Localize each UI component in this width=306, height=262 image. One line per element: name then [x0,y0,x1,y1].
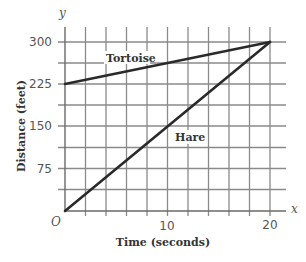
y-axis-variable: y [58,6,66,20]
x-tick-20: 20 [262,218,277,232]
x-tick-10: 10 [159,219,174,233]
horizontal-gridlines [58,42,286,190]
y-tick-300: 300 [29,35,52,49]
y-tick-75: 75 [37,162,52,176]
x-axis-variable: x [291,202,298,216]
x-axis-title: Time (seconds) [116,236,210,249]
origin-label: O [51,215,61,229]
hare-label: Hare [175,131,205,144]
y-axis-title: Distance (feet) [15,80,28,172]
y-tick-150: 150 [29,119,52,133]
y-tick-225: 225 [29,77,52,91]
distance-time-chart: Tortoise Hare y x O 300 225 150 75 10 20… [0,0,306,262]
tortoise-label: Tortoise [106,52,156,65]
